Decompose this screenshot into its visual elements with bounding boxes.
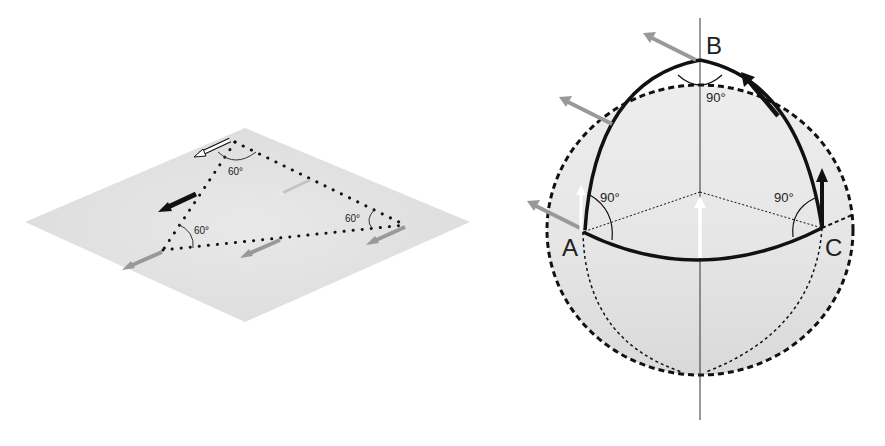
angle-label-b: 90° bbox=[706, 90, 726, 105]
angle-label-left: 60° bbox=[194, 225, 209, 236]
angle-label-a: 90° bbox=[600, 190, 620, 205]
vector-arrow-gray-b bbox=[643, 32, 696, 60]
angle-label-right: 60° bbox=[345, 213, 360, 224]
flat-plane-svg: 60° 60° 60° bbox=[0, 0, 480, 446]
sphere-diagram: 90° 90° 90° B A C bbox=[500, 0, 885, 446]
angle-label-top: 60° bbox=[228, 166, 243, 177]
sphere-svg: 90° 90° 90° B A C bbox=[500, 0, 885, 446]
vertex-label-a: A bbox=[562, 234, 578, 261]
angle-label-c: 90° bbox=[774, 190, 794, 205]
vector-arrow-gray-ab bbox=[559, 96, 612, 124]
vertex-label-b: B bbox=[706, 32, 722, 59]
vertex-label-c: C bbox=[825, 234, 842, 261]
flat-plane-diagram: 60° 60° 60° bbox=[0, 0, 480, 446]
